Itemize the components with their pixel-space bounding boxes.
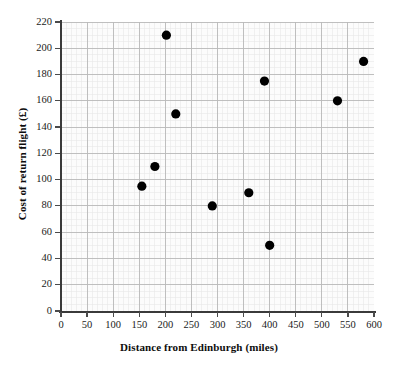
y-tick-mark	[55, 284, 60, 285]
x-tick-mark	[347, 312, 348, 317]
x-tick-mark	[139, 312, 140, 317]
data-point	[260, 77, 269, 86]
plot-area	[61, 22, 374, 311]
y-tick-mark	[55, 258, 60, 259]
y-tick-mark	[55, 179, 60, 180]
x-tick-mark	[373, 312, 374, 317]
x-tick-mark	[113, 312, 114, 317]
x-tick-mark	[269, 312, 270, 317]
data-point	[171, 109, 180, 118]
x-tick-mark	[165, 312, 166, 317]
y-tick-mark	[55, 310, 60, 311]
x-tick-mark	[191, 312, 192, 317]
data-point	[150, 162, 159, 171]
scatter-chart: 0204060801001201401601802002200501001502…	[0, 0, 398, 374]
y-tick-mark	[55, 153, 60, 154]
data-point	[162, 31, 171, 40]
y-tick-mark	[55, 74, 60, 75]
y-tick-mark	[55, 126, 60, 127]
y-tick-mark	[55, 21, 60, 22]
y-tick-mark	[55, 232, 60, 233]
x-tick-label: 600	[359, 320, 389, 331]
y-tick-mark	[55, 48, 60, 49]
x-tick-mark	[295, 312, 296, 317]
x-axis-title: Distance from Edinburgh (miles)	[0, 341, 398, 353]
y-axis-title: Cost of return flight (£)	[16, 14, 28, 314]
x-tick-mark	[243, 312, 244, 317]
x-tick-mark	[217, 312, 218, 317]
data-point	[244, 188, 253, 197]
y-axis-line	[60, 20, 62, 313]
y-tick-mark	[55, 205, 60, 206]
data-point	[137, 182, 146, 191]
data-point	[265, 241, 274, 250]
x-tick-mark	[86, 312, 87, 317]
data-point	[359, 57, 368, 66]
data-points-layer	[61, 22, 374, 311]
data-point	[208, 201, 217, 210]
data-point	[333, 96, 342, 105]
x-tick-mark	[60, 312, 61, 317]
x-tick-mark	[321, 312, 322, 317]
y-tick-mark	[55, 100, 60, 101]
